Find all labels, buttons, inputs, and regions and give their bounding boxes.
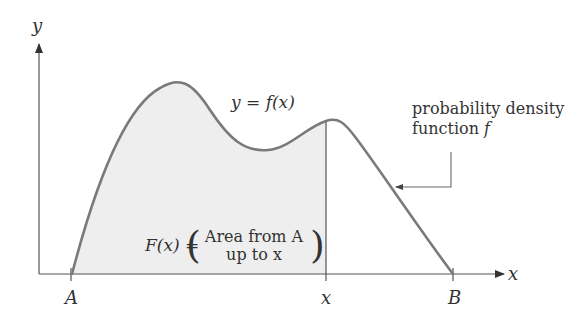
formula-line1: Area from A [204, 227, 304, 246]
y-axis-label: y [31, 15, 43, 36]
tick-label-B: B [447, 287, 461, 308]
pdf-diagram: y x A x B y = f(x) probability density f… [0, 0, 576, 323]
formula-line2: up to x [226, 245, 282, 264]
tick-label-A: A [63, 287, 78, 308]
callout-line2: function f [412, 119, 493, 138]
x-axis-label: x [508, 263, 518, 284]
formula-paren-right: ) [310, 223, 325, 267]
tick-label-x: x [321, 287, 331, 308]
formula-paren-left: ( [186, 223, 201, 267]
curve-label: y = f(x) [230, 92, 295, 112]
callout-line1: probability density [412, 99, 564, 118]
callout-pointer [396, 152, 451, 187]
